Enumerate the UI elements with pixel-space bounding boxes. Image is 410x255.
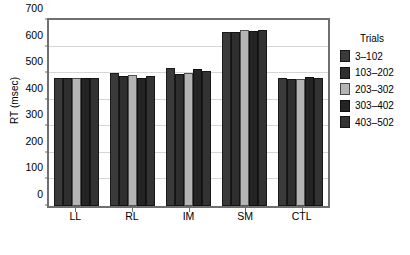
bar (90, 78, 99, 206)
bar (193, 69, 202, 206)
legend-item-label: 203–302 (355, 84, 394, 95)
y-axis-tick-label: 100 (25, 161, 49, 173)
bar (314, 78, 323, 206)
x-axis-labels: LLRLIMSMCTL (47, 210, 330, 222)
bar (249, 31, 258, 206)
y-axis-tick-label: 500 (25, 55, 49, 67)
bar (110, 73, 119, 206)
legend-entries: 3–102103–202203–302303–402403–502 (340, 50, 410, 128)
x-axis-tick-label-rl: RL (107, 210, 157, 222)
bar (54, 78, 63, 206)
legend-swatch-icon (340, 67, 350, 79)
bar (202, 71, 211, 207)
bar-group-im (166, 20, 211, 206)
y-axis-tick-label: 700 (25, 2, 49, 14)
legend-item: 3–102 (340, 50, 410, 62)
bar (258, 30, 267, 206)
bar (63, 78, 72, 206)
bar (128, 75, 137, 206)
bar (296, 79, 305, 206)
legend-title: Trials (360, 33, 410, 44)
bar (231, 32, 240, 206)
plot-area: 0100200300400500600700 (47, 18, 330, 208)
bar-group-ctl (278, 20, 323, 206)
y-axis-tick-label: 300 (25, 108, 49, 120)
y-axis-tick-label: 200 (25, 135, 49, 147)
bar (184, 73, 193, 206)
bar (81, 78, 90, 206)
x-axis-tick-label-ctl: CTL (277, 210, 327, 222)
legend-item: 303–402 (340, 100, 410, 112)
bar (278, 78, 287, 206)
bar-group-sm (222, 20, 267, 206)
bar-group-ll (54, 20, 99, 206)
bar (137, 78, 146, 206)
x-axis-tick-label-im: IM (163, 210, 213, 222)
y-axis-tick-label: 400 (25, 82, 49, 94)
y-axis-title: RT (msec) (9, 61, 20, 141)
bar (146, 76, 155, 206)
bar-groups (49, 20, 328, 206)
legend-item-label: 403–502 (355, 117, 394, 128)
legend: Trials 3–102103–202203–302303–402403–502 (340, 33, 410, 133)
x-axis-tick-label-ll: LL (50, 210, 100, 222)
y-axis-tick-label: 0 (37, 188, 49, 200)
legend-item-label: 103–202 (355, 67, 394, 78)
bar (287, 79, 296, 206)
legend-item: 203–302 (340, 83, 410, 95)
bar (175, 74, 184, 206)
y-axis-tick-label: 600 (25, 29, 49, 41)
bar (305, 77, 314, 206)
x-axis-tick-label-sm: SM (220, 210, 270, 222)
legend-swatch-icon (340, 116, 350, 128)
legend-item-label: 3–102 (355, 51, 383, 62)
legend-item: 403–502 (340, 116, 410, 128)
bar (72, 78, 81, 206)
bar-chart-figure: RT (msec) 0100200300400500600700 LLRLIMS… (0, 0, 410, 255)
bar (119, 76, 128, 206)
bar-group-rl (110, 20, 155, 206)
legend-item-label: 303–402 (355, 100, 394, 111)
bar (222, 32, 231, 206)
legend-swatch-icon (340, 83, 350, 95)
legend-swatch-icon (340, 100, 350, 112)
legend-item: 103–202 (340, 67, 410, 79)
bar (240, 30, 249, 206)
bar (166, 68, 175, 206)
legend-swatch-icon (340, 50, 350, 62)
